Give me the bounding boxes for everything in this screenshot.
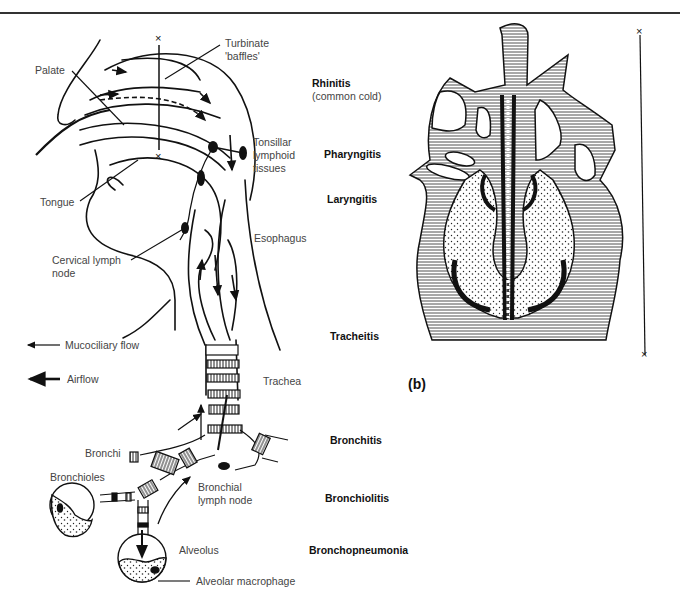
label-palate: Palate bbox=[35, 64, 65, 77]
panel-label-b: (b) bbox=[408, 376, 426, 392]
disease-bronchiolitis: Bronchiolitis bbox=[325, 492, 389, 505]
disease-rhinitis-name: Rhinitis bbox=[312, 77, 351, 89]
label-turbinate-line2: 'baffles' bbox=[225, 50, 269, 63]
label-trachea: Trachea bbox=[263, 375, 301, 388]
label-turbinate-line1: Turbinate bbox=[225, 37, 269, 50]
legend-airflow: Airflow bbox=[67, 373, 99, 386]
disease-rhinitis: Rhinitis (common cold) bbox=[312, 77, 381, 103]
label-turbinate: Turbinate 'baffles' bbox=[225, 37, 269, 63]
svg-text:×: × bbox=[155, 150, 161, 162]
label-alveolar-macrophage: Alveolar macrophage bbox=[196, 575, 295, 588]
svg-text:×: × bbox=[155, 32, 161, 44]
label-tonsillar-line2: lymphoid bbox=[253, 149, 295, 162]
legend-mucociliary-flow: Mucociliary flow bbox=[65, 339, 139, 352]
disease-rhinitis-sub: (common cold) bbox=[312, 90, 381, 103]
label-bronchial-line2: lymph node bbox=[198, 494, 252, 507]
label-cervical-lymph-node: Cervical lymph node bbox=[52, 254, 121, 280]
label-tonsillar: Tonsillar lymphoid tissues bbox=[253, 136, 295, 175]
bronchial-node bbox=[218, 462, 230, 470]
label-bronchioles: Bronchioles bbox=[50, 471, 105, 484]
label-tongue: Tongue bbox=[40, 196, 74, 209]
label-bronchial-lymph-node: Bronchial lymph node bbox=[198, 481, 252, 507]
label-tonsillar-line3: tissues bbox=[253, 162, 295, 175]
disease-pharyngitis: Pharyngitis bbox=[324, 148, 381, 161]
label-tonsillar-line1: Tonsillar bbox=[253, 136, 295, 149]
label-alveolus: Alveolus bbox=[179, 544, 219, 557]
nasal-cross-section bbox=[410, 24, 623, 340]
label-esophagus: Esophagus bbox=[254, 232, 307, 245]
disease-bronchitis: Bronchitis bbox=[330, 434, 382, 447]
svg-text:×: × bbox=[636, 25, 642, 37]
label-bronchi: Bronchi bbox=[85, 447, 121, 460]
disease-bronchopneumonia: Bronchopneumonia bbox=[309, 544, 408, 557]
label-cervical-line2: node bbox=[52, 267, 121, 280]
disease-laryngitis: Laryngitis bbox=[327, 193, 377, 206]
svg-text:×: × bbox=[641, 348, 647, 360]
label-cervical-line1: Cervical lymph bbox=[52, 254, 121, 267]
label-bronchial-line1: Bronchial bbox=[198, 481, 252, 494]
disease-tracheitis: Tracheitis bbox=[330, 330, 379, 343]
